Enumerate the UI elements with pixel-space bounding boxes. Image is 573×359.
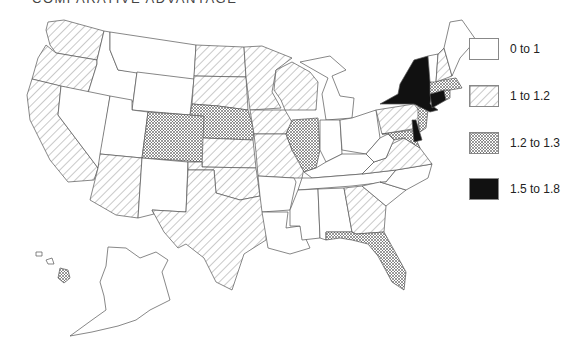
- state-fl: [326, 232, 406, 290]
- legend-label: 1.5 to 1.8: [510, 182, 560, 196]
- legend-swatch-crosshatch: [469, 132, 499, 154]
- state-ak: [70, 247, 170, 336]
- legend-label: 1 to 1.2: [510, 89, 550, 103]
- state-co: [142, 112, 205, 162]
- state-hi-islands: [36, 252, 42, 256]
- legend-item-1-to-1.2: 1 to 1.2: [469, 84, 550, 108]
- state-nd: [194, 45, 246, 77]
- state-ks: [202, 138, 256, 168]
- state-wi: [274, 62, 318, 110]
- state-nm: [138, 158, 188, 218]
- legend-swatch-white: [469, 38, 499, 60]
- state-ar: [258, 176, 296, 212]
- legend-label: 0 to 1: [510, 42, 540, 56]
- legend-swatch-hatch: [469, 85, 499, 107]
- legend-label: 1.2 to 1.3: [510, 136, 560, 150]
- state-wy: [132, 72, 194, 115]
- state-ia: [250, 110, 292, 134]
- legend-swatch-black: [469, 178, 499, 200]
- state-hi: [58, 268, 70, 283]
- legend-item-1.5-to-1.8: 1.5 to 1.8: [469, 177, 560, 201]
- legend-item-1.2-to-1.3: 1.2 to 1.3: [469, 131, 560, 155]
- legend-item-0-to-1: 0 to 1: [469, 37, 540, 61]
- state-hi-islands-2: [46, 258, 54, 264]
